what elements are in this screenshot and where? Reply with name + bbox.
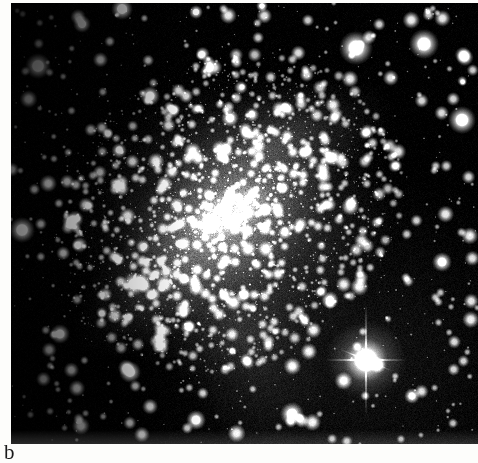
panel-label: b bbox=[4, 442, 15, 463]
paper-margin-bottom bbox=[0, 444, 478, 463]
figure-panel: b bbox=[0, 0, 478, 463]
star-field-canvas bbox=[11, 3, 478, 444]
astronomical-plate-image bbox=[11, 3, 478, 444]
paper-margin-left bbox=[0, 0, 11, 463]
paper-margin-top bbox=[0, 0, 478, 3]
